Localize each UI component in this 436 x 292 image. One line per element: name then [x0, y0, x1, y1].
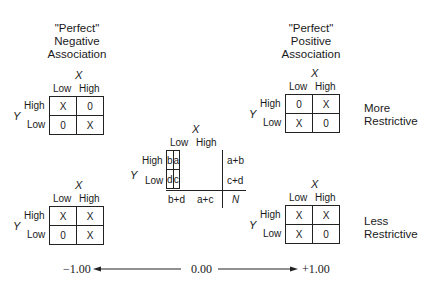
- negative-association-title: "Perfect" Negative Association: [32, 22, 122, 61]
- table-cell: 0: [50, 116, 77, 135]
- title-line: "Perfect": [32, 22, 122, 35]
- table-cell: 0: [286, 95, 313, 114]
- center-contingency-table: b a d c: [166, 150, 180, 189]
- col-header-low: Low: [289, 81, 307, 92]
- y-axis-label: Y: [13, 110, 20, 122]
- cell-c: c: [173, 170, 180, 189]
- title-line: Association: [32, 48, 122, 61]
- cell-a: a: [173, 151, 180, 170]
- x-axis-label: X: [75, 179, 82, 191]
- col-header-high: High: [315, 81, 336, 92]
- y-axis-label: Y: [130, 169, 137, 181]
- left-arrow-icon: [93, 262, 183, 276]
- title-line: Positive: [266, 35, 356, 48]
- negative-association-table: X00X: [49, 96, 104, 135]
- positive-association-title: "Perfect" Positive Association: [266, 22, 356, 61]
- title-line: Negative: [32, 35, 122, 48]
- col-header-low: Low: [53, 193, 71, 204]
- row-header-low: Low: [145, 175, 163, 186]
- col-header-low: Low: [289, 192, 307, 203]
- title-line: "Perfect": [266, 22, 356, 35]
- row-header-high: High: [24, 210, 45, 221]
- col-total-2: a+c: [197, 194, 213, 205]
- y-axis-label: Y: [249, 108, 256, 120]
- table-cell: X: [313, 95, 340, 114]
- table-cell: 0: [313, 225, 340, 244]
- less-restrictive-negative-table: XX0X: [49, 206, 104, 245]
- more-restrictive-label: More Restrictive: [364, 102, 418, 128]
- col-header-high: High: [79, 193, 100, 204]
- y-axis-label: Y: [249, 219, 256, 231]
- scale-min-label: −1.00: [63, 262, 91, 277]
- side-label-line: Restrictive: [364, 115, 418, 128]
- side-label-line: Less: [364, 215, 418, 228]
- table-cell: X: [77, 226, 104, 245]
- table-cell: X: [286, 206, 313, 225]
- side-label-line: More: [364, 102, 418, 115]
- table-cell: X: [286, 114, 313, 133]
- row-header-low: Low: [27, 119, 45, 130]
- table-cell: 0: [50, 226, 77, 245]
- less-restrictive-label: Less Restrictive: [364, 215, 418, 241]
- col-header-high: High: [315, 192, 336, 203]
- row-header-high: High: [260, 98, 281, 109]
- marginal-divider-horizontal: [166, 190, 246, 191]
- col-total-1: b+d: [168, 194, 185, 205]
- side-label-line: Restrictive: [364, 228, 418, 241]
- row-total-2: c+d: [227, 175, 243, 186]
- x-axis-label: X: [311, 67, 318, 79]
- table-cell: X: [77, 207, 104, 226]
- marginal-divider-vertical: [222, 150, 223, 208]
- scale-mid-label: 0.00: [191, 262, 212, 277]
- table-cell: 0: [313, 114, 340, 133]
- row-header-low: Low: [27, 229, 45, 240]
- table-cell: X: [77, 116, 104, 135]
- col-header-high: High: [196, 137, 217, 148]
- positive-association-table: 0XX0: [285, 94, 340, 133]
- less-restrictive-positive-table: XXX0: [285, 205, 340, 244]
- row-total-1: a+b: [227, 155, 244, 166]
- col-header-low: Low: [170, 137, 188, 148]
- right-arrow-icon: [218, 262, 300, 276]
- row-header-high: High: [24, 100, 45, 111]
- col-header-high: High: [79, 83, 100, 94]
- association-scale: −1.00 0.00 +1.00: [0, 262, 436, 282]
- scale-max-label: +1.00: [302, 262, 330, 277]
- grand-total: N: [232, 194, 239, 205]
- table-cell: X: [286, 225, 313, 244]
- title-line: Association: [266, 48, 356, 61]
- x-axis-label: X: [311, 178, 318, 190]
- row-header-low: Low: [263, 117, 281, 128]
- y-axis-label: Y: [13, 220, 20, 232]
- table-cell: X: [50, 97, 77, 116]
- x-axis-label: X: [192, 123, 199, 135]
- x-axis-label: X: [75, 69, 82, 81]
- row-header-high: High: [142, 155, 163, 166]
- table-cell: X: [50, 207, 77, 226]
- table-cell: 0: [77, 97, 104, 116]
- col-header-low: Low: [53, 83, 71, 94]
- row-header-high: High: [260, 209, 281, 220]
- row-header-low: Low: [263, 228, 281, 239]
- table-cell: X: [313, 206, 340, 225]
